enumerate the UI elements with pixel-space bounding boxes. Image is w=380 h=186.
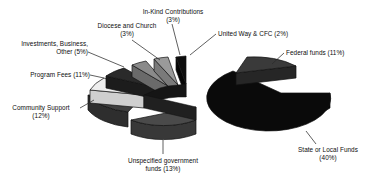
slice-federal-funds[interactable] (236, 57, 296, 85)
leader-line-diocese (132, 40, 160, 60)
label-program-fees: Program Fees (11%) (8, 71, 90, 79)
label-state-or-local-funds: State or Local Funds (40%) (286, 146, 370, 162)
label-united-way-cfc: United Way & CFC (2%) (218, 30, 288, 38)
label-unspecified-government-funds: Unspecified government funds (13%) (114, 157, 212, 173)
label-community-support: Community Support (12%) (2, 104, 80, 120)
leader-line-state (306, 131, 316, 144)
leader-line-united-way (190, 34, 216, 55)
leader-line-investments (88, 52, 124, 67)
label-federal-funds: Federal funds (11%) (286, 49, 344, 57)
leader-line-program-fees (90, 75, 104, 78)
label-diocese-and-church: Diocese and Church (3%) (78, 22, 176, 38)
label-investments-business-other: Investments, Business, Other (5%) (4, 40, 88, 56)
pie-chart-figure: In-Kind Contributions (3%) Diocese and C… (0, 0, 380, 186)
